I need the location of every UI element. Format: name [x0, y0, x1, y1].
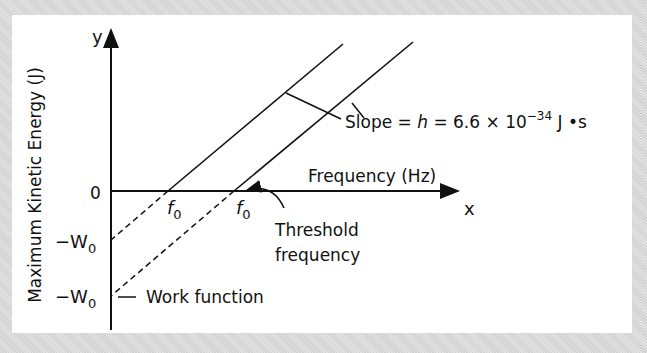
- f0-label-2: f0: [236, 197, 251, 222]
- x-axis-label: Frequency (Hz): [308, 166, 436, 186]
- threshold-label-line2: frequency: [275, 245, 360, 265]
- y-letter: y: [92, 26, 103, 47]
- y-axis-label: Maximum Kinetic Energy (J): [25, 67, 45, 303]
- slope-annotation: Slope = h = 6.6 × 10−34 J •s: [345, 109, 587, 132]
- neg-w0-label-2: −W0: [55, 286, 96, 311]
- work-function-label: Work function: [146, 287, 264, 307]
- threshold-label-line1: Threshold: [274, 220, 359, 240]
- neg-w0-label-1: −W0: [55, 231, 96, 256]
- slope-pointer-1: [286, 93, 341, 119]
- origin-label: 0: [90, 183, 101, 203]
- x-letter: x: [464, 198, 475, 219]
- photoelectric-graph: Maximum Kinetic Energy (J) y x Frequency…: [0, 0, 647, 353]
- f0-label-1: f0: [167, 197, 182, 222]
- dashed-extension-1: [111, 191, 168, 240]
